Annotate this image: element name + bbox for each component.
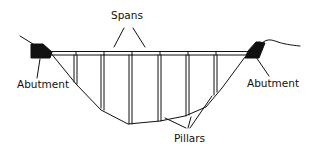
pillar-4 — [158, 55, 161, 121]
abutment-left-label: Abutment — [17, 79, 69, 90]
abutment-right-label: Abutment — [247, 78, 299, 89]
abutment-left — [31, 44, 52, 58]
left-hillside — [20, 36, 33, 44]
spans-label: Spans — [111, 10, 143, 21]
pillar-6 — [214, 55, 217, 95]
bridge-diagram: Spans Abutment Abutment Pillars — [0, 0, 313, 155]
spans-leader-1 — [114, 28, 124, 47]
right-hillside — [262, 40, 300, 46]
abutment-right-leader — [256, 57, 269, 76]
abutment-right — [245, 42, 265, 58]
pillar-3 — [129, 55, 132, 124]
pillar-1 — [74, 55, 77, 84]
spans-leader-2 — [133, 28, 145, 47]
pillar-5 — [186, 55, 189, 116]
abutment-left-leader — [37, 59, 40, 78]
pillar-2 — [101, 55, 104, 110]
pillars-label: Pillars — [174, 133, 205, 144]
valley-ground — [50, 52, 245, 124]
pillars-leader-1 — [165, 118, 186, 128]
